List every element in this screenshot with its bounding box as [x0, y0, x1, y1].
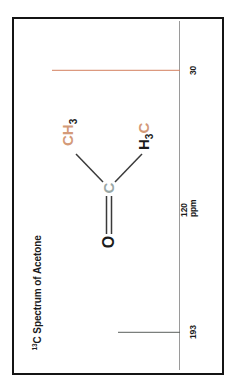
axis-tick-120: 120 ppm — [180, 200, 198, 217]
plot-area: 13C Spectrum of Acetone O — [17, 22, 220, 371]
atom-label-methyl-left: H3C — [135, 123, 155, 150]
figure-frame: 13C Spectrum of Acetone O — [12, 17, 224, 375]
peak-methyl-30 — [52, 70, 180, 72]
rotated-figure-container: 13C Spectrum of Acetone O — [12, 17, 224, 375]
bond-to-methyl-left — [115, 155, 142, 183]
atom-label-oxygen: O — [100, 236, 117, 248]
atom-label-carbonyl-carbon: C — [100, 183, 117, 194]
figure-title-text: C Spectrum of Acetone — [32, 235, 43, 343]
peak-carbonyl-193 — [118, 331, 180, 333]
axis-baseline — [179, 22, 180, 371]
axis-tick-30: 30 — [189, 66, 198, 75]
figure-title-superscript: 13 — [31, 343, 38, 350]
axis-unit-label: ppm — [189, 200, 198, 217]
figure-page: 13C Spectrum of Acetone O — [0, 0, 236, 391]
figure-title: 13C Spectrum of Acetone — [31, 235, 43, 350]
atom-label-methyl-right: CH3 — [59, 119, 79, 147]
bond-to-methyl-right — [76, 155, 103, 183]
acetone-structure: O C CH3 H3C — [53, 109, 165, 259]
axis-tick-193: 193 — [189, 325, 198, 339]
